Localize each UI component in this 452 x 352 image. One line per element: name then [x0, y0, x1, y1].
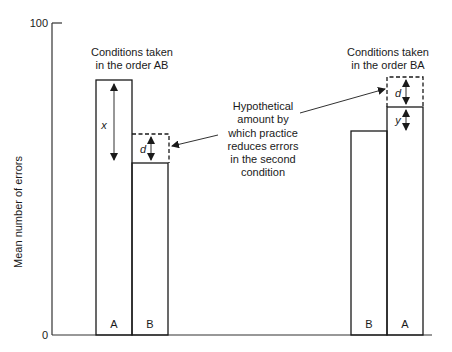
bar-label-ba-b: B	[365, 318, 372, 330]
d-symbol-left: d	[140, 143, 147, 155]
x-symbol: x	[100, 119, 107, 131]
caption-ab-line1: Conditions taken	[91, 46, 173, 58]
note-line-5: in the second	[230, 153, 295, 165]
caption-ab-line2: in the order AB	[96, 59, 169, 71]
order-effects-diagram: 100 0 Mean number of errors Conditions t…	[0, 0, 452, 352]
pointer-arrow-right-icon	[300, 89, 385, 113]
bar-label-ba-a: A	[401, 318, 409, 330]
hypothetical-box-ab	[132, 134, 169, 163]
d-symbol-right: d	[395, 87, 402, 99]
y-symbol: y	[394, 114, 402, 126]
bar-ba-b	[351, 131, 387, 335]
caption-ba-line1: Conditions taken	[347, 46, 429, 58]
pointer-arrow-left-icon	[172, 135, 218, 146]
caption-ba-line2: in the order BA	[351, 59, 425, 71]
bar-ba-a	[387, 107, 423, 335]
note-line-6: condition	[241, 166, 285, 178]
bar-ab-b	[132, 163, 168, 335]
hypothetical-note: Hypothetical amount by which practice re…	[172, 89, 385, 178]
bar-label-ab-a: A	[110, 318, 118, 330]
y-tick-label-100: 100	[30, 17, 48, 29]
y-tick-label-0: 0	[42, 329, 48, 341]
y-axis-label: Mean number of errors	[12, 156, 24, 268]
bar-group-ab: x d A B	[96, 80, 169, 335]
bar-group-ba: d y B A	[351, 77, 423, 335]
note-line-3: which practice	[227, 127, 298, 139]
note-line-4: reduces errors	[228, 140, 299, 152]
note-line-1: Hypothetical	[233, 100, 294, 112]
y-axis	[52, 23, 62, 335]
bar-label-ab-b: B	[146, 318, 153, 330]
note-line-2: amount by	[237, 113, 289, 125]
hypothetical-box-ba	[387, 77, 423, 107]
